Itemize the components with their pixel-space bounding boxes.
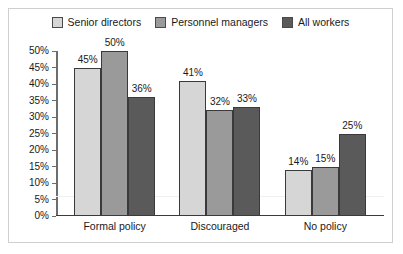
bar-group: 45%50%36% (74, 51, 155, 216)
y-axis-tick-label: 40% (29, 79, 52, 89)
bar-group: 41%32%33% (179, 51, 260, 216)
bar-slot: 15% (312, 51, 339, 216)
bar-group: 14%15%25% (285, 51, 366, 216)
y-axis-tick-label: 15% (29, 162, 52, 172)
legend-label: All workers (298, 17, 349, 28)
legend-swatch-icon (155, 17, 166, 28)
y-axis-tick-label: 25% (29, 129, 52, 139)
legend-label: Personnel managers (171, 17, 268, 28)
bar-value-label: 14% (288, 157, 308, 167)
bar-slot: 32% (206, 51, 233, 216)
bar[interactable]: 45% (74, 68, 101, 217)
legend-item[interactable]: Senior directors (52, 17, 142, 28)
y-axis-ticks: 50%45%40%35%30%25%20%15%10%5%0% (9, 51, 56, 216)
y-axis-tick-label: 20% (29, 145, 52, 155)
bar[interactable]: 15% (312, 167, 339, 217)
legend-swatch-icon (52, 17, 63, 28)
legend-item[interactable]: Personnel managers (155, 17, 268, 28)
bar-slot: 45% (74, 51, 101, 216)
bar-value-label: 32% (210, 97, 230, 107)
y-axis-tick-label: 50% (29, 46, 52, 56)
legend-item[interactable]: All workers (282, 17, 349, 28)
bar-slot: 33% (233, 51, 260, 216)
bar-value-label: 45% (78, 55, 98, 65)
y-axis-tick-label: 5% (35, 195, 52, 205)
bar-slot: 36% (128, 51, 155, 216)
bar-slot: 50% (101, 51, 128, 216)
y-axis-tick-label: 0% (35, 211, 52, 221)
x-axis-category-label: No policy (285, 221, 366, 232)
chart-legend: Senior directorsPersonnel managersAll wo… (9, 17, 392, 28)
y-axis-tick-label: 35% (29, 96, 52, 106)
bar-groups: 45%50%36%41%32%33%14%15%25% (56, 51, 384, 216)
bar[interactable]: 25% (339, 134, 366, 217)
legend-label: Senior directors (68, 17, 142, 28)
y-axis-tick-label: 45% (29, 63, 52, 73)
bar-slot: 14% (285, 51, 312, 216)
x-axis-category-label: Discouraged (179, 221, 260, 232)
bar-slot: 25% (339, 51, 366, 216)
bar-value-label: 41% (183, 68, 203, 78)
bar[interactable]: 14% (285, 170, 312, 216)
x-axis-category-labels: Formal policyDiscouragedNo policy (56, 221, 384, 232)
legend-swatch-icon (282, 17, 293, 28)
chart-frame: Senior directorsPersonnel managersAll wo… (8, 8, 393, 243)
bar-value-label: 50% (105, 38, 125, 48)
bar[interactable]: 50% (101, 51, 128, 216)
bar[interactable]: 33% (233, 107, 260, 216)
bar[interactable]: 41% (179, 81, 206, 216)
bar[interactable]: 32% (206, 110, 233, 216)
bar-value-label: 33% (237, 94, 257, 104)
x-axis-category-label: Formal policy (74, 221, 155, 232)
bar[interactable]: 36% (128, 97, 155, 216)
y-axis-tick-label: 10% (29, 178, 52, 188)
bar-slot: 41% (179, 51, 206, 216)
bar-value-label: 36% (132, 84, 152, 94)
bar-value-label: 15% (315, 154, 335, 164)
y-axis-tick-label: 30% (29, 112, 52, 122)
bar-value-label: 25% (342, 121, 362, 131)
